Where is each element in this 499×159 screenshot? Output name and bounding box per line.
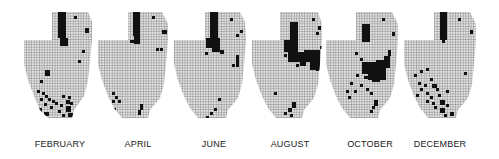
occupied-cell	[48, 98, 51, 101]
occupied-cell	[50, 106, 53, 109]
occupied-cell	[370, 110, 373, 113]
occupied-cell	[388, 50, 391, 56]
occupied-cell	[130, 40, 134, 43]
occupied-cell	[414, 74, 417, 77]
occupied-cell	[205, 52, 208, 55]
occupied-cell	[210, 12, 218, 40]
occupied-cell	[426, 92, 429, 95]
occupied-cell	[62, 114, 65, 117]
occupied-cell	[284, 40, 298, 52]
occupied-cell	[236, 55, 239, 67]
occupied-cell	[292, 102, 296, 108]
occupied-cell	[430, 96, 433, 99]
occupied-cell	[440, 108, 445, 113]
occupied-cell	[362, 24, 370, 42]
occupied-cell	[316, 68, 319, 71]
occupied-cell	[220, 50, 224, 54]
occupied-cell	[296, 64, 299, 67]
map-panel-august	[252, 12, 323, 118]
occupied-cell	[444, 118, 447, 121]
occupied-cell	[446, 104, 449, 107]
occupied-cell	[284, 54, 287, 57]
occupied-cell	[364, 76, 368, 79]
occupied-cell	[382, 18, 385, 21]
occupied-cell	[438, 118, 441, 121]
occupied-cell	[434, 106, 437, 109]
map-panel-october	[326, 12, 398, 118]
occupied-cell	[274, 92, 277, 95]
occupied-cell	[52, 100, 55, 103]
occupied-cell	[464, 72, 467, 75]
occupied-cell	[38, 108, 42, 114]
occupied-cell	[320, 46, 323, 49]
occupied-cell	[44, 112, 49, 116]
occupied-cell	[44, 103, 47, 106]
occupied-cell	[372, 74, 380, 82]
occupied-cell	[68, 113, 73, 117]
occupied-cell	[82, 50, 85, 53]
occupied-cell	[432, 84, 437, 88]
occupied-cell	[360, 84, 363, 87]
occupied-cell	[68, 96, 71, 99]
occupied-cell	[40, 80, 43, 83]
occupied-cell	[206, 116, 209, 119]
occupied-cell	[426, 100, 429, 103]
occupied-cell	[58, 110, 61, 113]
occupied-cell	[440, 100, 445, 105]
occupied-cell	[113, 108, 116, 111]
occupied-cell	[372, 106, 375, 109]
occupied-cell	[133, 12, 140, 36]
occupied-cell	[55, 102, 58, 105]
occupied-cell	[355, 52, 358, 55]
occupied-cell	[376, 60, 384, 68]
occupied-cell	[118, 100, 121, 103]
occupied-cell	[66, 100, 70, 104]
occupied-cell	[40, 98, 43, 101]
occupied-cell	[74, 16, 77, 19]
occupied-cell	[420, 88, 423, 91]
occupied-cell	[210, 112, 213, 115]
occupied-cell	[354, 90, 357, 93]
occupied-cell	[366, 88, 369, 91]
grid-map-figure	[0, 0, 499, 159]
occupied-cell	[162, 30, 167, 34]
occupied-cell	[316, 32, 319, 35]
occupied-cell	[444, 114, 447, 117]
occupied-cell	[312, 18, 315, 21]
occupied-cell	[350, 82, 353, 85]
occupied-cell	[138, 110, 141, 115]
occupied-cell	[300, 62, 306, 66]
occupied-cell	[230, 18, 233, 21]
occupied-cell	[442, 40, 445, 43]
occupied-cell	[112, 92, 115, 95]
occupied-cell	[470, 30, 473, 34]
occupied-cell	[78, 60, 81, 63]
occupied-cell	[214, 108, 217, 111]
occupied-cell	[438, 94, 441, 97]
month-label: DECEMBER	[414, 139, 467, 149]
map-panel-december	[404, 12, 476, 121]
occupied-cell	[37, 90, 40, 93]
occupied-cell	[60, 38, 68, 46]
occupied-cell	[62, 95, 65, 98]
occupied-cell	[58, 12, 66, 38]
occupied-cell	[156, 48, 159, 51]
occupied-cell	[370, 92, 373, 95]
occupied-cell	[346, 90, 349, 93]
occupied-cell	[440, 12, 447, 40]
occupied-cell	[424, 84, 427, 87]
occupied-cell	[218, 98, 221, 101]
map-panel-april	[98, 12, 168, 118]
occupied-cell	[115, 96, 118, 99]
occupied-cell	[160, 48, 163, 51]
occupied-cell	[432, 102, 435, 105]
occupied-cell	[236, 34, 239, 37]
occupied-cell	[284, 112, 287, 115]
occupied-cell	[42, 92, 45, 95]
occupied-cell	[212, 46, 220, 52]
occupied-cell	[152, 16, 155, 19]
occupied-cell	[112, 100, 115, 103]
occupied-cell	[458, 18, 461, 21]
occupied-cell	[290, 114, 293, 117]
occupied-cell	[134, 34, 140, 44]
